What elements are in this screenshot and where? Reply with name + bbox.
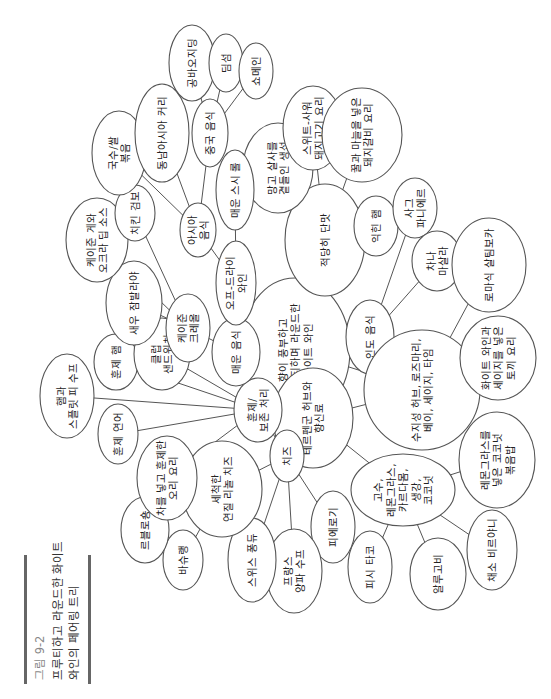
node-chinese: 중국 음식: [192, 99, 228, 167]
node-curry: 동남아시아 커리: [135, 84, 189, 182]
node-label: 바슈랭: [177, 545, 189, 575]
node-label: 볶음: [119, 143, 131, 163]
node-label: 프랑스: [282, 556, 294, 586]
node-honey-ribs: 꿀과 마늘을 넣은돼지갈비 요리: [322, 88, 402, 182]
node-label: 코코넛: [422, 475, 434, 505]
node-label: 스위트-사워: [301, 101, 313, 155]
node-label: 세이지를 넣은: [492, 326, 504, 389]
node-label: 매운 음식: [230, 330, 242, 373]
node-label: 카르다몸,: [397, 468, 409, 511]
caption-bar-left: [24, 555, 27, 684]
node-label: 스위스 퐁듀: [246, 533, 258, 586]
node-rabbit: 화이트 와인과세이지를 넣은토끼 요리: [460, 316, 536, 400]
node-label: 새우 잠발라야: [128, 271, 140, 334]
node-label: 수지성 허브, 로즈마리,: [410, 338, 422, 441]
node-label: 동남아시아 커리: [156, 96, 168, 169]
node-label: 채소 비르야니: [486, 518, 498, 581]
node-label: 양파 수프: [294, 549, 306, 592]
figure-caption: 그림 9-2 프루티하고 라운드한 화이트 와인의 페어링 트리: [24, 541, 91, 684]
node-label: 익힌 햄: [370, 209, 382, 242]
node-label: 향이 풍부하고: [277, 318, 289, 381]
node-label: 차를 넣고 훈제한: [155, 440, 167, 517]
node-label: 고수,: [372, 478, 384, 501]
node-label: 베이, 세이지, 타임: [422, 348, 434, 431]
node-label: 훈제 햄: [110, 345, 122, 378]
node-label: 차나: [425, 251, 437, 271]
node-label: 크레올: [188, 313, 200, 343]
node-smoked-salmon: 훈제 연어: [98, 404, 138, 464]
node-label: 국수/쌀: [107, 136, 119, 170]
node-label: 햄과: [55, 386, 67, 406]
node-label: 마살라: [437, 246, 449, 276]
node-label: 딤섬: [220, 53, 232, 73]
node-kungpao: 공바오지딩: [169, 25, 215, 101]
node-label: 적당히 단맛: [319, 213, 331, 266]
node-spicy: 매운 음식: [212, 318, 260, 386]
node-label: 음식: [198, 220, 210, 240]
node-label: 중국 음식: [204, 111, 216, 154]
node-cilantro: 고수,레몬그라스,카르다몸,생강,코코넛: [351, 454, 455, 526]
edge-smoked-pea-soup: [67, 396, 258, 410]
node-label: 화이트 와인과: [480, 326, 492, 389]
node-label: 공바오지딩: [186, 38, 198, 88]
node-label: 클럽: [150, 344, 162, 364]
node-label: 망고 살사를: [266, 141, 278, 194]
node-dimsum: 딤섬: [209, 34, 243, 92]
node-label: 케이준: [176, 313, 188, 343]
node-off-dry: 오프-드라이와인: [216, 241, 256, 325]
figure-label: 그림 9-2: [33, 636, 47, 680]
caption-bar-right: [88, 555, 91, 684]
node-cheese: 치즈: [270, 430, 304, 482]
node-label: 연질 리놀 치즈: [222, 456, 234, 523]
node-label: 레몬그라스,: [385, 463, 397, 516]
node-label: 오프-드라이: [224, 256, 236, 310]
node-label: 오리 요리: [167, 456, 179, 499]
node-aloo-gobi: 알루고비: [410, 538, 466, 610]
node-label: 토끼 요리: [505, 336, 517, 379]
node-label: 향신료: [313, 403, 325, 433]
node-label: 피시 타코: [364, 545, 376, 588]
node-label: 쇼메인: [250, 56, 262, 86]
node-coconut-rice: 레몬그라스를넣은 코코넛볶음밥: [459, 412, 535, 508]
node-label: 꿀과 마늘을 넣은: [350, 97, 362, 174]
node-label: 사그: [403, 198, 415, 218]
node-label: 치즈: [281, 446, 293, 466]
node-label: 돼지갈비 요리: [362, 103, 374, 166]
figure-title-line-1: 프루티하고 라운드한 화이트: [51, 541, 65, 680]
node-label: 로마식 살팀보카: [483, 228, 495, 301]
node-smoked: 훈제/보존 처리: [234, 378, 282, 442]
node-saag-paneer: 사그파니에르: [393, 178, 437, 238]
node-cajun: 케이준크레올: [166, 294, 210, 362]
node-label: 와인: [236, 273, 248, 293]
node-label: 세척한: [210, 474, 222, 504]
node-label: 훈제/: [246, 398, 258, 422]
node-vacherin: 바슈랭: [163, 530, 203, 590]
node-chowmein: 쇼메인: [239, 43, 273, 99]
node-tea-duck: 차를 넣고 훈제한오리 요리: [137, 436, 197, 520]
node-asian: 아시아음식: [180, 203, 216, 257]
node-label: 파니에르: [415, 188, 427, 228]
node-label: 볶음밥: [504, 445, 516, 475]
node-label: 매운 스시 롤: [229, 162, 241, 219]
figure-title-line-2: 와인의 페어링 트리: [67, 585, 81, 680]
node-label: 인도 음식: [364, 315, 376, 358]
node-label: 알루고비: [432, 554, 444, 594]
node-pea-soup: 햄과스플릿 피 수프: [40, 354, 94, 438]
node-label: 레몬그라스를: [479, 430, 491, 490]
node-sushi: 매운 스시 롤: [216, 150, 254, 230]
node-label: 훈제 연어: [112, 412, 124, 455]
node-cooked-ham: 익힌 햄: [354, 196, 398, 256]
node-biryani: 채소 비르야니: [467, 510, 517, 590]
node-label: 오크라 딥 소스: [97, 207, 109, 274]
node-label: 넣은 코코넛: [491, 433, 503, 486]
node-label: 스플릿 피 수프: [67, 363, 79, 430]
node-label: 피에로기: [327, 507, 339, 547]
node-label: 케이준 게와: [85, 213, 97, 266]
node-saltimbocca: 로마식 살팀보카: [452, 218, 526, 312]
node-label: 보존 처리: [258, 388, 270, 431]
nodes: 향이 풍부하고프루티하며 라운드한화이트 와인인도 음식적당히 단맛망고 살사를…: [40, 25, 536, 613]
node-label: 생강,: [410, 478, 422, 501]
node-label: 치킨 검보: [129, 191, 141, 234]
node-fish-taco: 피시 타코: [348, 531, 392, 603]
node-label: 아시아: [186, 215, 198, 245]
